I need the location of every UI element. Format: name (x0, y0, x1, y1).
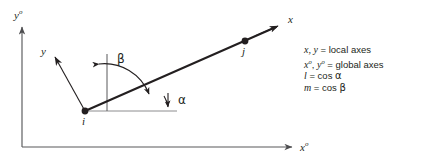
legend-row-local-axes: x, y = local axes (304, 44, 426, 56)
global-y-axis-label: yo (14, 9, 22, 21)
legend-block: x, y = local axes xo, yo = global axes l… (304, 44, 426, 94)
alpha-angle-label: α (178, 94, 186, 106)
local-y-axis (55, 57, 85, 111)
node-i-dot (82, 108, 89, 115)
local-x-arrowhead (255, 26, 278, 36)
local-x-axis-label: x (288, 14, 293, 25)
legend-row-global-axes: xo, yo = global axes (304, 56, 426, 71)
global-axis-lines (22, 27, 292, 147)
local-y-axis-label: y (41, 46, 46, 57)
global-x-axis-label: xo (300, 141, 308, 153)
truss-element-diagram: yo xo x y i j β α x, y = local axes xo, … (0, 0, 428, 164)
legend-row-l-cos-alpha: l = cos α (304, 70, 426, 82)
beta-angle-label: β (117, 53, 125, 65)
legend-row-m-cos-beta: m = cos β (304, 82, 426, 94)
node-i-label: i (82, 116, 85, 127)
node-j-label: j (242, 46, 245, 57)
node-j-dot (242, 38, 249, 45)
alpha-angle-arc (164, 96, 168, 107)
